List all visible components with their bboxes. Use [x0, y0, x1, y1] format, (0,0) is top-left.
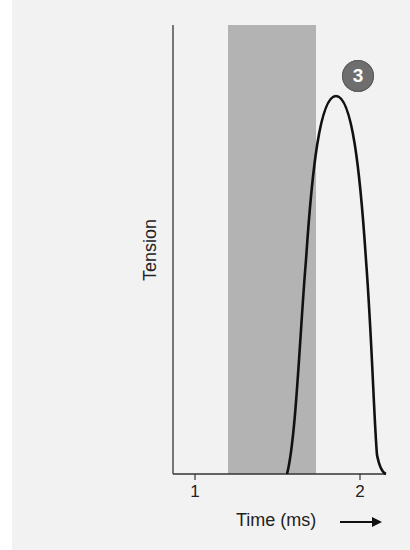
y-axis-label: Tension: [140, 219, 161, 281]
x-direction-arrow-icon: [372, 517, 382, 527]
x-tick-label-1: 1: [190, 482, 199, 502]
step-number-badge: 3: [342, 60, 374, 92]
x-axis-label: Time (ms): [236, 510, 316, 531]
x-tick-label-2: 2: [355, 482, 364, 502]
shaded-region: [228, 25, 316, 474]
